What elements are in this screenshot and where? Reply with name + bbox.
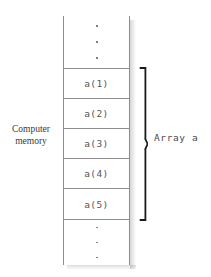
array-cell: a(3) xyxy=(64,129,129,159)
array-cell-label: a(4) xyxy=(84,168,108,179)
array-cell: a(5) xyxy=(64,189,129,219)
array-label: Array a xyxy=(154,132,198,143)
array-cell-label: a(3) xyxy=(84,138,108,149)
memory-ellipsis-bottom xyxy=(64,220,129,265)
array-cell-label: a(1) xyxy=(84,78,108,89)
ellipsis-dot xyxy=(96,242,98,243)
column-shadow-bottom xyxy=(67,265,136,270)
array-brace-icon xyxy=(139,67,148,221)
array-cell: a(1) xyxy=(64,69,129,99)
array-cell: a(2) xyxy=(64,99,129,129)
array-cell-group: a(1) a(2) a(3) a(4) a(5) xyxy=(64,68,129,220)
memory-column: a(1) a(2) a(3) a(4) a(5) xyxy=(63,16,130,265)
ellipsis-dot xyxy=(96,57,98,59)
ellipsis-dot xyxy=(96,41,98,43)
memory-array-figure: Computer memory a(1) a(2) a(3) a(4) xyxy=(0,0,211,277)
column-shadow-right xyxy=(130,20,136,269)
ellipsis-dot xyxy=(96,257,98,258)
ellipsis-dot xyxy=(96,227,98,228)
array-cell-label: a(5) xyxy=(84,199,108,210)
memory-ellipsis-top xyxy=(64,16,129,68)
array-cell-label: a(2) xyxy=(84,108,108,119)
ellipsis-dot xyxy=(96,25,98,27)
computer-memory-label: Computer memory xyxy=(2,123,60,147)
computer-memory-label-line2: memory xyxy=(2,135,60,147)
array-cell: a(4) xyxy=(64,159,129,189)
computer-memory-label-line1: Computer xyxy=(2,123,60,135)
